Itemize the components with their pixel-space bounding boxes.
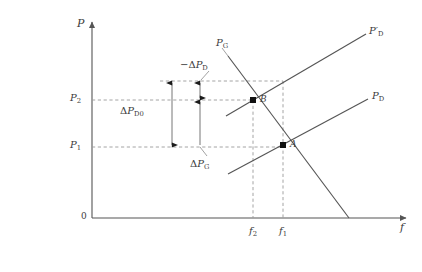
curve-pg-sub: G: [223, 42, 228, 50]
annotation-label-delta-pg: ΔPG: [190, 159, 209, 169]
y-axis-label: P: [77, 18, 84, 29]
economics-diagram-figure: P f 0 P2 P1 f2 f1 PG P′D PD B A ΔPD0 −ΔP…: [0, 0, 422, 272]
point-label-b: B: [260, 95, 267, 104]
annotation-label-neg-delta-pd: −ΔPD: [180, 60, 208, 70]
diagram-canvas: [0, 0, 422, 272]
y-tick-p2-sub: 2: [77, 97, 81, 105]
curve-pd-sub: D: [379, 95, 384, 103]
y-tick-p1-sub: 1: [77, 144, 81, 152]
x-tick-f1-sub: 1: [283, 230, 287, 238]
y-tick-p2-base: P: [70, 92, 77, 103]
curve-pg-supply: [228, 56, 349, 218]
points-group: [250, 97, 286, 148]
curve-pd-base: P: [372, 90, 379, 101]
annotation-pg-base: P: [197, 158, 204, 169]
origin-label: 0: [81, 212, 87, 221]
curve-label-pd: PD: [372, 91, 384, 101]
curve-label-pd-prime: P′D: [369, 26, 383, 36]
annotation-pd0-sub: D0: [134, 110, 144, 118]
point-marker-a: [280, 142, 286, 148]
point-label-a: A: [290, 140, 297, 149]
y-tick-label-p2: P2: [70, 93, 81, 103]
curve-pd-prime-sub: D: [378, 30, 383, 38]
x-tick-label-f2: f2: [249, 226, 257, 236]
y-tick-label-p1: P1: [70, 140, 81, 150]
curves-group: [226, 34, 368, 218]
leader-delta-pg-label: [200, 147, 207, 156]
annotation-pd0-base: P: [127, 105, 134, 116]
x-tick-f2-sub: 2: [253, 230, 257, 238]
curve-pd-demand: [228, 99, 368, 174]
x-axis-label: f: [400, 222, 404, 233]
curve-label-pg: PG: [216, 38, 228, 48]
curve-pd-prime-base: P: [369, 25, 376, 36]
curve-pg-base: P: [216, 37, 223, 48]
y-tick-p1-base: P: [70, 139, 77, 150]
annotation-pg-sub: G: [204, 163, 209, 171]
x-tick-label-f1: f1: [279, 226, 287, 236]
point-marker-b: [250, 97, 256, 103]
delta-glyph-pd: Δ: [188, 59, 195, 70]
annotation-pd-sub: D: [202, 64, 207, 72]
axis-group: [92, 22, 406, 218]
annotation-arrows-group: [172, 71, 209, 156]
curve-pd-prime-shifted-demand: [226, 34, 366, 116]
leader-neg-delta-pd-label: [201, 71, 209, 80]
annotation-label-delta-pd0: ΔPD0: [120, 106, 144, 116]
